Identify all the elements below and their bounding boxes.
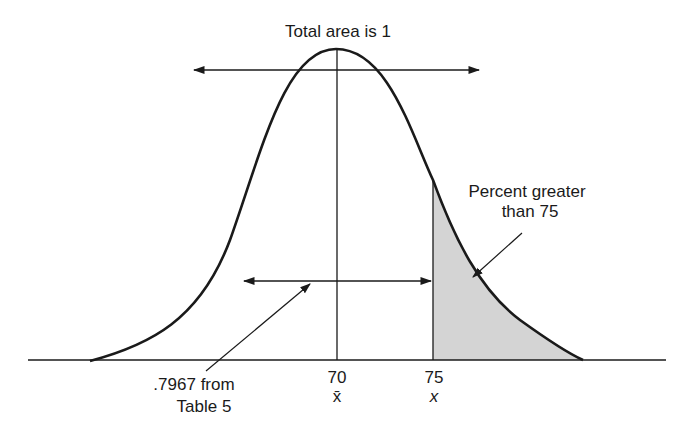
tail-label-line1: Percent greater <box>468 182 585 202</box>
left-area-label-line2: Table 5 <box>177 397 232 417</box>
tick-label-70: 70 <box>328 368 347 388</box>
tail-label-line2: than 75 <box>502 202 559 222</box>
tick-symbol-x: x <box>430 387 439 407</box>
left-area-pointer <box>206 284 310 371</box>
tail-pointer <box>473 233 522 277</box>
title-label: Total area is 1 <box>285 22 391 42</box>
normal-curve-diagram <box>0 0 695 445</box>
tick-symbol-xbar: x̄ <box>333 387 342 407</box>
left-area-label-line1: .7967 from <box>153 375 234 395</box>
tick-label-75: 75 <box>425 368 444 388</box>
